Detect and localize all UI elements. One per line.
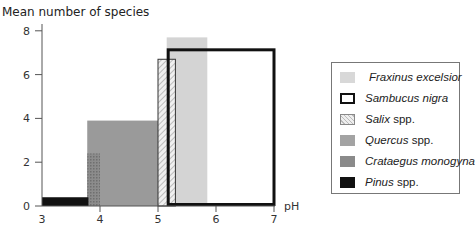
- x-axis-label: pH: [284, 200, 299, 213]
- bar-pinus-spp: [42, 197, 88, 206]
- x-tick-label: 7: [271, 213, 278, 226]
- bars-group: [42, 37, 274, 206]
- legend-label: Fraxinus excelsior: [369, 71, 462, 83]
- legend-item: Fraxinus excelsior: [340, 69, 462, 85]
- y-tick-label: 2: [23, 156, 30, 169]
- legend-label: Pinus spp.: [365, 176, 419, 188]
- legend-swatch: [340, 72, 355, 83]
- bar-salix-spp: [158, 59, 175, 206]
- y-tick-label: 6: [23, 69, 30, 82]
- legend-label: Salix spp.: [365, 113, 415, 125]
- x-tick-label: 3: [39, 213, 46, 226]
- legend-label: Sambucus nigra: [365, 92, 448, 104]
- legend-swatch: [340, 114, 355, 125]
- legend-item: Salix spp.: [340, 111, 415, 127]
- legend-label: Crataegus monogyna: [365, 155, 475, 167]
- legend-item: Sambucus nigra: [340, 90, 448, 106]
- legend-swatch: [340, 156, 355, 167]
- y-tick-label: 0: [23, 200, 30, 213]
- legend-item: Crataegus monogyna: [340, 153, 475, 169]
- bar-crataegus-monogyna: [87, 153, 100, 206]
- x-tick-label: 5: [155, 213, 162, 226]
- y-tick-label: 8: [23, 25, 30, 38]
- legend-item: Pinus spp.: [340, 174, 419, 190]
- legend-swatch: [340, 177, 355, 188]
- legend-item: Quercus spp.: [340, 132, 433, 148]
- legend-swatch: [340, 135, 355, 146]
- legend-swatch: [340, 93, 355, 104]
- x-tick-label: 6: [213, 213, 220, 226]
- x-tick-label: 4: [97, 213, 104, 226]
- y-tick-label: 4: [23, 112, 30, 125]
- legend: Fraxinus excelsiorSambucus nigraSalix sp…: [331, 62, 460, 194]
- legend-label: Quercus spp.: [365, 134, 433, 146]
